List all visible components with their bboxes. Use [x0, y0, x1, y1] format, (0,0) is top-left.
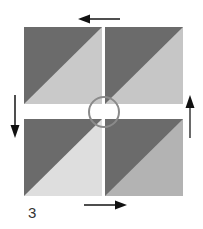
- square-bottom-left: [24, 119, 102, 196]
- arrow-down-icon: [9, 95, 21, 139]
- figure-label: 3: [28, 204, 36, 221]
- arrow-left-icon: [78, 13, 122, 25]
- center-circle-marker: [88, 96, 120, 128]
- square-bottom-right: [105, 119, 183, 196]
- arrow-up-icon: [184, 95, 196, 139]
- arrow-right-icon: [84, 199, 128, 211]
- square-top-left: [24, 27, 102, 104]
- square-top-right: [105, 27, 183, 104]
